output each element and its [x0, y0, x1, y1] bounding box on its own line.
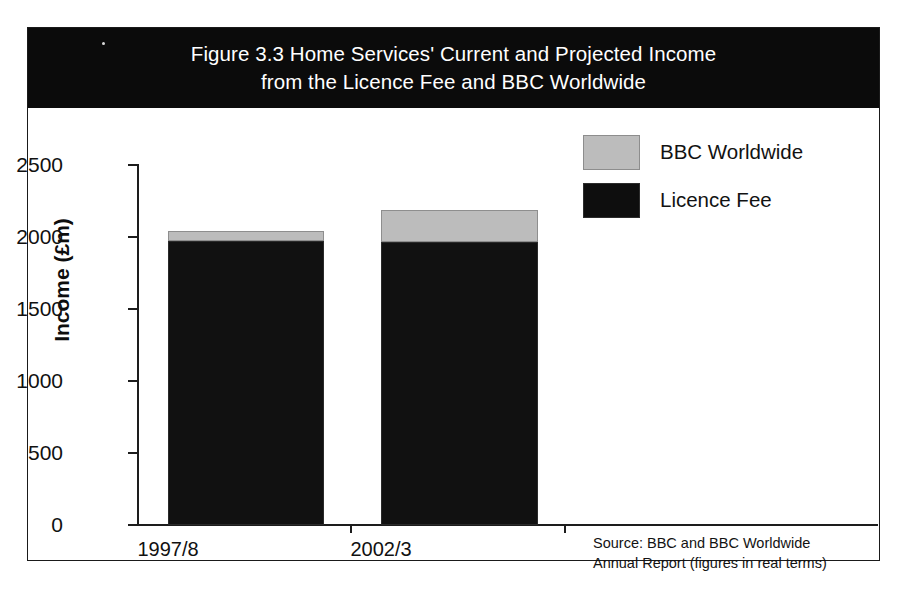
y-tick-label-2000: 2000: [0, 225, 63, 249]
legend-item-bbc-worldwide[interactable]: BBC Worldwide: [583, 128, 803, 176]
bar-segment-bbc-worldwide-1997-8: [168, 231, 324, 241]
source-note-line-2: Annual Report (figures in real terms): [593, 553, 827, 573]
bar-segment-licence-fee-1997-8: [168, 241, 324, 525]
legend-label-licence-fee: Licence Fee: [660, 188, 772, 212]
bar-group-1997-8: [168, 108, 324, 526]
legend-swatch-icon-bbc-worldwide: [583, 135, 640, 170]
chart-legend: BBC Worldwide Licence Fee: [583, 128, 803, 224]
figure-title-line-1: Figure 3.3 Home Services' Current and Pr…: [191, 40, 716, 68]
y-tick-1500: [128, 308, 138, 310]
y-tick-label-1000: 1000: [0, 369, 63, 393]
y-tick-500: [128, 452, 138, 454]
legend-item-licence-fee[interactable]: Licence Fee: [583, 176, 803, 224]
legend-swatch-icon-licence-fee: [583, 183, 640, 218]
figure-title-banner: Figure 3.3 Home Services' Current and Pr…: [28, 28, 879, 108]
bar-segment-bbc-worldwide-2002-3: [381, 210, 538, 242]
figure-title-line-2: from the Licence Fee and BBC Worldwide: [261, 68, 646, 96]
y-tick-1000: [128, 380, 138, 382]
x-tick-label-1997-8: 1997/8: [78, 538, 258, 561]
y-tick-label-1500: 1500: [0, 297, 63, 321]
bar-segment-licence-fee-2002-3: [381, 242, 538, 525]
figure-frame: Figure 3.3 Home Services' Current and Pr…: [27, 27, 880, 561]
y-tick-2500: [128, 164, 138, 166]
source-note: Source: BBC and BBC Worldwide Annual Rep…: [593, 533, 827, 573]
x-tick-label-2002-3: 2002/3: [291, 538, 471, 561]
banner-speck: [102, 42, 105, 45]
legend-label-bbc-worldwide: BBC Worldwide: [660, 140, 803, 164]
y-tick-0: [128, 524, 138, 526]
y-tick-label-2500: 2500: [0, 153, 63, 177]
y-tick-label-500: 500: [0, 441, 63, 465]
x-tick-mid: [350, 524, 352, 533]
plot-region: Income (£m) 2500 2000 1500 1000 500 0 19…: [28, 108, 879, 560]
y-axis-line: [137, 164, 139, 526]
bar-group-2002-3: [381, 108, 538, 526]
source-note-line-1: Source: BBC and BBC Worldwide: [593, 533, 827, 553]
y-axis-title: Income (£m): [50, 180, 74, 380]
x-tick-right: [564, 524, 566, 533]
y-tick-label-0: 0: [0, 513, 63, 537]
y-tick-2000: [128, 236, 138, 238]
